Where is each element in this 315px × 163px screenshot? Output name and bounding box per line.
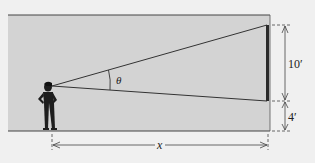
angle-label: θ <box>116 74 122 86</box>
dim-4ft-label: 4′ <box>288 110 297 124</box>
dim-x-label: x <box>156 138 163 152</box>
viewing-angle-diagram: θ 10′ 4′ x <box>0 0 315 163</box>
dim-10ft-label: 10′ <box>288 57 303 71</box>
screen <box>266 25 269 101</box>
